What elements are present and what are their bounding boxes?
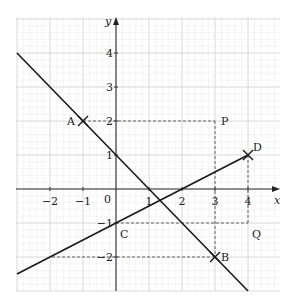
y-tick-label: 1	[106, 149, 113, 162]
x-tick-label: 3	[212, 195, 219, 208]
y-axis-label: y	[104, 15, 112, 28]
point-label-q: Q	[252, 228, 261, 241]
x-tick-label: −2	[42, 195, 58, 208]
x-tick-label: −1	[75, 195, 91, 208]
tick-labels: xy−2−112344321−1−20ABCDPQ	[42, 15, 281, 264]
y-tick-label: 3	[106, 81, 113, 94]
point-label-d: D	[253, 141, 262, 154]
point-label-b: B	[221, 251, 229, 264]
y-tick-label: −2	[97, 251, 113, 264]
x-tick-label: 4	[245, 195, 252, 208]
point-label-c: C	[120, 228, 128, 241]
x-tick-label: 1	[146, 195, 153, 208]
y-axis-arrow-icon	[113, 17, 119, 25]
coordinate-diagram: xy−2−112344321−1−20ABCDPQ	[0, 0, 289, 302]
point-label-a: A	[66, 115, 76, 128]
point-label-p: P	[221, 115, 229, 128]
y-tick-label: 4	[106, 47, 113, 60]
x-tick-label: 2	[179, 195, 186, 208]
origin-label: 0	[104, 193, 111, 206]
y-tick-label: 2	[106, 115, 113, 128]
x-axis-arrow-icon	[272, 186, 280, 192]
y-tick-label: −1	[97, 217, 113, 230]
grid	[16, 17, 280, 291]
x-axis-label: x	[274, 194, 281, 207]
